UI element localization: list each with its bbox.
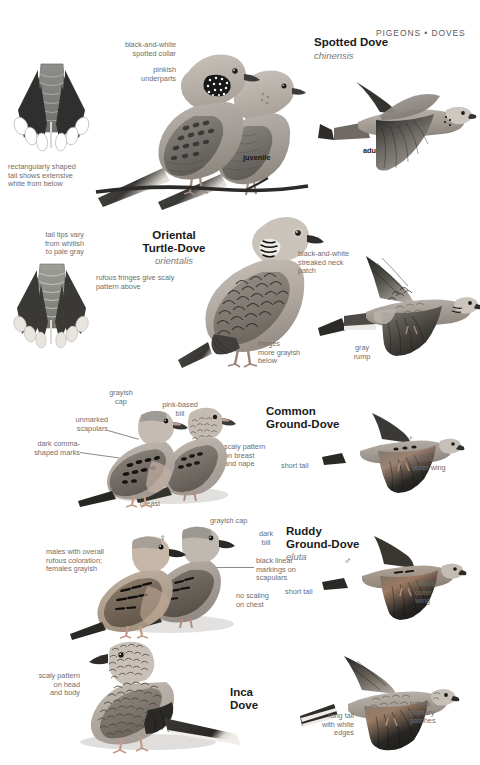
ruddy-ground-dove-pair — [70, 524, 244, 634]
caption-short-tail-common: short tail — [281, 462, 323, 471]
caption-dark-comma-marks: dark comma- shaped marks — [18, 440, 80, 457]
caption-rufous-outer-wing-ruddy: rufous outer wing — [415, 580, 455, 606]
oriental-turtle-dove-flight — [318, 250, 478, 360]
species-name-line1: Ruddy — [286, 525, 322, 537]
oriental-turtle-dove-tail-illustration — [8, 264, 94, 352]
caption-tail-tips-vary: tail tips vary from whitish to pale gray — [12, 231, 84, 257]
species-name-text: Spotted Dove — [314, 36, 388, 48]
spotted-dove-flight — [318, 76, 476, 176]
caption-long-tail-white-edges: long tail with white edges — [300, 712, 354, 738]
species-name-spotted-dove: Spotted Dove chinensis — [314, 36, 388, 62]
caption-fringes-grayish: fringes more grayish below — [258, 340, 326, 366]
spotted-dove-tail-illustration — [8, 62, 94, 154]
caption-rufous-outer-wing-common: rufous outer wing — [412, 455, 460, 472]
caption-short-tail-ruddy: short tail — [285, 588, 329, 597]
caption-rufous-primary-patches: rufous primary patches — [410, 700, 458, 726]
page-header: PIGEONS • DOVES — [376, 28, 466, 38]
caption-spotted-collar: black-and-white spotted collar — [90, 41, 176, 58]
caption-dark-bill: dark bill — [252, 530, 280, 547]
common-ground-dove-pair — [78, 403, 238, 507]
inca-dove-perched — [64, 638, 244, 756]
species-name-line1: Inca — [230, 686, 253, 698]
label-juvenile: juvenile — [243, 153, 271, 162]
species-latin-text: chinensis — [314, 50, 388, 63]
species-name-inca-dove: Inca Dove — [230, 686, 258, 711]
caption-pinkish-underparts: pinkish underparts — [90, 66, 176, 83]
field-guide-page: PIGEONS • DOVES — [0, 0, 480, 765]
species-name-line2: Dove — [230, 699, 258, 711]
common-ground-dove-flight — [320, 405, 468, 495]
species-name-line1: Common — [266, 405, 316, 417]
spotted-dove-perched-pair — [96, 34, 308, 204]
caption-rectangular-tail: rectangularly shaped tail shows extensiv… — [8, 163, 112, 189]
ruddy-ground-dove-flight — [318, 528, 470, 622]
